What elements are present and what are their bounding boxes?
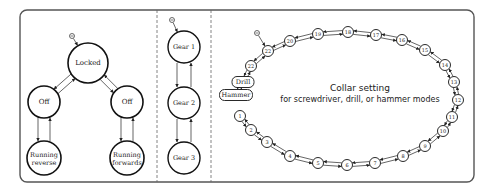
state-label: 2 [249, 127, 252, 133]
collar-setting-10: 10 [438, 126, 449, 137]
transition-pair [453, 87, 458, 95]
collar-setting-13: 13 [449, 77, 460, 88]
transition-pair [323, 31, 342, 36]
collar-setting-9: 9 [420, 141, 431, 152]
state-label: 13 [451, 79, 457, 85]
collar-setting-17: 17 [371, 30, 382, 41]
collar-caption-title: Collar setting [330, 83, 390, 93]
state-label: 9 [423, 143, 426, 149]
transition-pair [295, 34, 313, 42]
state-gear1: Gear 1 [168, 31, 200, 63]
state-label: 8 [401, 153, 404, 159]
initial-state-icon [170, 18, 178, 32]
collar-setting-1: 1 [235, 111, 246, 122]
transition-pair [121, 118, 133, 141]
state-label: 6 [345, 162, 348, 168]
state-label: 19 [315, 31, 321, 37]
collar-setting-16: 16 [397, 35, 408, 46]
collar-caption-subtitle: for screwdriver, drill, or hammer modes [280, 95, 439, 104]
transition-pair [380, 156, 398, 164]
state-label: Off [122, 98, 134, 106]
state-label: forwards [112, 159, 141, 167]
state-running-forwards: Runningforwards [110, 141, 144, 175]
state-label: 15 [422, 47, 428, 53]
transition-pair [352, 162, 369, 167]
collar-setting-19: 19 [313, 29, 324, 40]
state-label: Running [30, 151, 58, 159]
statechart-diagram: LockedOffOffRunningreverseRunningforward… [0, 0, 494, 194]
transition-pair [406, 41, 420, 50]
transition-pair [428, 133, 440, 144]
state-label: 10 [440, 128, 446, 134]
transition-pair [177, 119, 191, 142]
state-label: Off [39, 98, 51, 106]
transition-pair [353, 31, 370, 36]
state-off-right: Off [111, 86, 143, 118]
transition-pair [54, 74, 75, 94]
state-label: 22 [265, 48, 271, 54]
state-label: Gear 3 [173, 154, 195, 162]
state-label: 22 [248, 63, 254, 69]
collar-setting-14: 14 [440, 60, 451, 71]
collar-setting-7: 7 [370, 158, 381, 169]
state-label: Gear 2 [173, 99, 195, 107]
collar-setting-5: 5 [313, 158, 324, 169]
mode-hammer: Hammer [220, 90, 253, 101]
collar-setting-6: 6 [342, 160, 353, 171]
state-locked: Locked [68, 43, 108, 83]
transition-pair [272, 42, 285, 51]
mode-label: Hammer [222, 91, 252, 99]
transition-pair [323, 162, 341, 167]
collar-setting-2: 2 [246, 125, 257, 136]
collar-setting-18: 18 [343, 27, 354, 38]
power-statechart: LockedOffOffRunningreverseRunningforward… [27, 34, 144, 176]
state-running-reverse: Runningreverse [27, 141, 61, 175]
transition-pair [271, 143, 286, 154]
collar-setting-3: 3 [262, 137, 273, 148]
transition-pair [38, 118, 50, 141]
collar-setting-8: 8 [398, 151, 409, 162]
transition-pair [381, 34, 397, 40]
state-label: Gear 1 [173, 43, 195, 51]
state-label: Running [113, 151, 141, 159]
transition-pair [428, 52, 441, 63]
state-off-left: Off [28, 86, 60, 118]
state-label: 11 [449, 114, 455, 120]
state-label: 16 [399, 37, 405, 43]
collar-setting-11: 11 [447, 112, 458, 123]
mode-drill: Drill [232, 77, 254, 88]
collar-setting-22: 22 [246, 61, 257, 72]
state-label: Locked [75, 59, 101, 67]
state-label: 5 [316, 160, 319, 166]
state-label: 14 [442, 62, 448, 68]
state-label: 4 [288, 153, 291, 159]
state-label: reverse [32, 159, 57, 167]
state-label: 20 [287, 38, 293, 44]
transition-pair [295, 156, 313, 164]
collar-setting-20: 20 [285, 36, 296, 47]
state-label: 17 [373, 32, 379, 38]
collar-setting-22: 22 [263, 46, 274, 57]
collar-setting-12: 12 [453, 95, 464, 106]
transition-pair [407, 147, 420, 156]
state-label: 1 [238, 113, 241, 119]
transition-pair [177, 63, 191, 87]
state-label: 3 [265, 139, 268, 145]
initial-state-icon [255, 31, 265, 46]
state-label: 18 [345, 29, 351, 35]
state-gear3: Gear 3 [168, 142, 200, 174]
gear-statechart: Gear 1Gear 2Gear 3 [168, 18, 200, 175]
state-label: 12 [455, 97, 461, 103]
mode-label: Drill [236, 78, 251, 86]
collar-setting-15: 15 [420, 45, 431, 56]
initial-state-icon [70, 34, 78, 46]
transition-pair [254, 53, 265, 63]
state-label: 7 [373, 160, 376, 166]
state-gear2: Gear 2 [168, 87, 200, 119]
collar-setting-4: 4 [285, 151, 296, 162]
